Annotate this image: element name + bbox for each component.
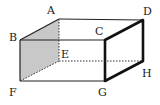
prism-diagram: A B C D E F G H: [0, 0, 160, 105]
label-h: H: [142, 67, 152, 80]
label-f: F: [9, 86, 17, 99]
edge-ad: [59, 19, 143, 20]
bold-face-cdhg: [105, 20, 143, 81]
shaded-face-abfe: [20, 19, 59, 81]
label-b: B: [9, 31, 17, 44]
label-a: A: [46, 4, 56, 17]
label-c: C: [95, 25, 103, 38]
label-g: G: [98, 86, 107, 99]
label-d: D: [143, 5, 152, 18]
label-e: E: [61, 48, 69, 61]
